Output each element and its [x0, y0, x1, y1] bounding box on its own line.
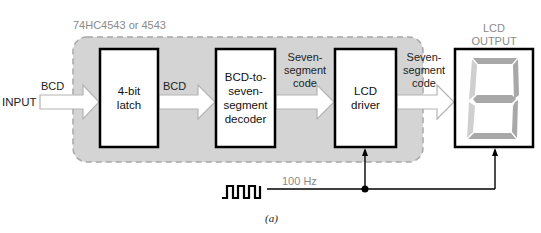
- lcd-output-title: LCD OUTPUT: [455, 22, 533, 48]
- driver-to-lcd-label: Seven- segment code: [399, 51, 449, 90]
- driver-label: LCD driver: [335, 49, 396, 147]
- input-label: INPUT: [2, 96, 37, 109]
- decoder-label: BCD-to- seven- segment decoder: [216, 49, 275, 147]
- input-signal-label: BCD: [41, 80, 64, 93]
- driver-to-lcd-label-line-3: code: [399, 77, 449, 90]
- latch-to-decoder-label: BCD: [163, 80, 186, 93]
- driver-to-lcd-label-line-1: Seven-: [399, 51, 449, 64]
- decoder-label-line-3: segment: [223, 98, 267, 112]
- driver-label-line-2: driver: [351, 98, 380, 112]
- decoder-to-driver-label: Seven- segment code: [279, 51, 331, 90]
- decoder-label-line-1: BCD-to-: [225, 70, 267, 84]
- segment-g: [473, 95, 516, 103]
- driver-label-line-1: LCD: [354, 84, 377, 98]
- clock-arrowhead-lcd: [492, 148, 498, 156]
- chip-label: 74HC4543 or 4543: [73, 19, 166, 32]
- lcd-output-title-line-1: LCD: [455, 22, 533, 35]
- decoder-to-driver-label-line-3: code: [279, 77, 331, 90]
- decoder-to-driver-label-line-2: segment: [279, 64, 331, 77]
- driver-to-lcd-label-line-2: segment: [399, 64, 449, 77]
- clock-frequency-label: 100 Hz: [282, 175, 317, 188]
- segment-b: [513, 59, 519, 99]
- lcd-output-title-line-2: OUTPUT: [455, 35, 533, 48]
- figure-caption: (a): [265, 212, 278, 225]
- decoder-to-driver-label-line-1: Seven-: [279, 51, 331, 64]
- latch-label-line-2: latch: [117, 98, 141, 112]
- decoder-label-line-4: decoder: [225, 112, 267, 126]
- junction-dot: [362, 186, 369, 193]
- latch-label: 4-bit latch: [100, 49, 158, 147]
- segment-d: [468, 133, 516, 139]
- segment-a: [473, 58, 517, 64]
- latch-label-line-1: 4-bit: [118, 84, 140, 98]
- square-wave-icon: [222, 186, 260, 198]
- decoder-label-line-2: seven-: [228, 84, 263, 98]
